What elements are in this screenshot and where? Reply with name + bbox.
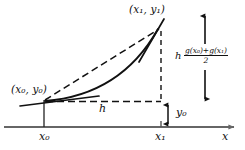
diagram-canvas: (x₁, y₁) (x₀, y₀) x₀ x₁ x h y₀ h g(x₀)+g… [0, 0, 245, 150]
point-label-x1-y1: (x₁, y₁) [129, 4, 165, 15]
axis-tick-label-x0: x₀ [39, 131, 50, 142]
chord-dashed-line [45, 29, 159, 100]
tangent-segment-lower [20, 96, 99, 106]
formula-numerator: g(x₀)+g(x₁) [184, 47, 228, 55]
formula-factor-h: h [175, 50, 181, 61]
axis-label-x: x [222, 131, 228, 142]
initial-value-label-y0: y₀ [176, 107, 187, 118]
trapezoid-area-formula: h g(x₀)+g(x₁) 2 [175, 47, 228, 64]
tangent-segment-upper [139, 19, 164, 62]
point-label-x0-y0: (x₀, y₀) [11, 84, 47, 95]
trapezoid-rule-figure [0, 0, 245, 150]
axis-tick-label-x1: x₁ [155, 131, 166, 142]
formula-fraction: g(x₀)+g(x₁) 2 [184, 47, 228, 64]
formula-denominator: 2 [204, 56, 209, 64]
step-width-label-h: h [99, 103, 106, 114]
